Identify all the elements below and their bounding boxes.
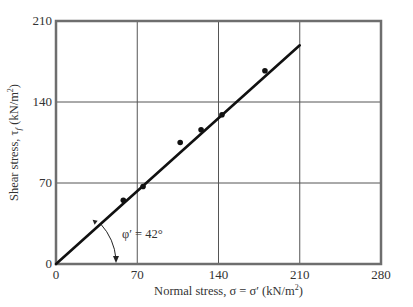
x-tick-label: 70 — [131, 267, 144, 282]
x-tick-label: 210 — [290, 267, 310, 282]
grid-lines — [56, 21, 381, 264]
y-tick-label: 140 — [33, 94, 53, 109]
x-tick-label: 280 — [371, 267, 391, 282]
data-point — [121, 198, 127, 204]
y-tick-label: 210 — [33, 13, 53, 28]
data-point — [219, 112, 225, 118]
data-point — [198, 127, 204, 133]
y-tick-label: 70 — [39, 175, 52, 190]
x-tick-label: 0 — [53, 267, 60, 282]
y-axis-ticks: 070140210 — [33, 13, 53, 271]
failure-envelope-line — [56, 45, 300, 264]
arrowhead-icon — [93, 220, 98, 225]
angle-annotation: φ′ = 42° — [122, 227, 163, 241]
x-axis-label: Normal stress, σ = σ′ (kN/m2) — [154, 283, 303, 298]
arrowhead-icon — [113, 256, 119, 263]
x-axis-ticks: 070140210280 — [53, 267, 391, 282]
data-point — [177, 140, 183, 146]
y-tick-label: 0 — [46, 256, 53, 271]
y-axis-label: Shear stress, τf (kN/m2) — [6, 84, 23, 201]
angle-arc — [101, 224, 116, 259]
x-tick-label: 140 — [209, 267, 229, 282]
data-point — [262, 68, 268, 74]
data-point — [140, 184, 146, 190]
shear-stress-chart: 070140210280 070140210 φ′ = 42° Normal s… — [0, 0, 413, 307]
